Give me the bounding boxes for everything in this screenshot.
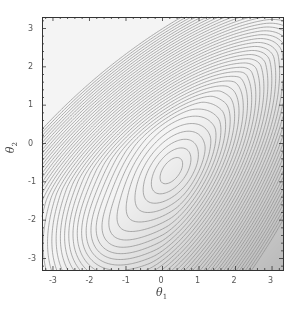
y-tick-label: 2: [28, 62, 33, 71]
x-axis-title-subscript: 1: [163, 293, 167, 301]
x-axis-title-symbol: θ: [156, 286, 163, 299]
y-axis-title-symbol: θ: [4, 147, 17, 154]
y-tick-label: -3: [28, 254, 36, 263]
y-tick-label: -1: [28, 177, 36, 186]
x-axis-title: θ1: [156, 286, 167, 301]
x-tick-label: 0: [159, 276, 164, 285]
y-axis-title: θ2: [4, 142, 19, 153]
y-tick-label: 1: [28, 100, 33, 109]
x-tick-label: 2: [232, 276, 237, 285]
y-tick-label: 3: [28, 24, 33, 33]
y-tick-label: 0: [28, 139, 33, 148]
contour-plot-canvas: [0, 0, 302, 312]
x-tick-label: -3: [49, 276, 57, 285]
x-tick-label: 3: [268, 276, 273, 285]
x-tick-label: -2: [85, 276, 93, 285]
y-axis-title-subscript: 2: [11, 142, 19, 146]
x-tick-label: 1: [195, 276, 200, 285]
y-tick-label: -2: [28, 215, 36, 224]
x-tick-label: -1: [122, 276, 130, 285]
